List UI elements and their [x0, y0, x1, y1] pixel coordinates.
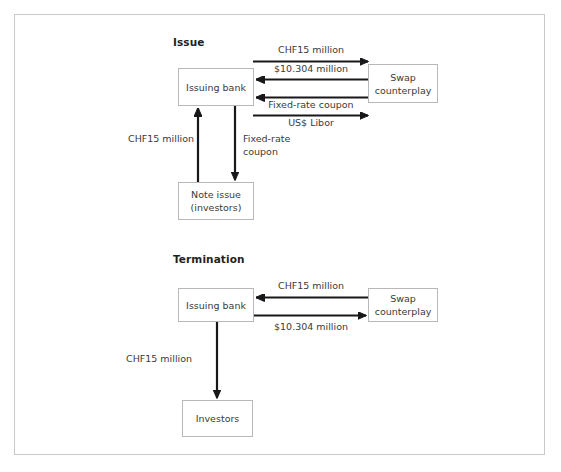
- edge-label-issue-fixed-rate-coupon-to-investors: Fixed-rate coupon: [243, 132, 290, 158]
- edge-label-issue-usd10304-to-bank: $10.304 million: [255, 62, 367, 75]
- edge-label-issue-usd-libor-to-swap: US$ Libor: [255, 116, 367, 129]
- node-termination-issuing-bank[interactable]: Issuing bank: [178, 288, 254, 322]
- node-label: Investors: [196, 412, 240, 425]
- node-issue-swap-counterplay[interactable]: Swap counterplay: [368, 64, 438, 103]
- section-heading-termination: Termination: [173, 253, 245, 265]
- edge-label-issue-fixed-rate-coupon-to-bank: Fixed-rate coupon: [253, 98, 369, 111]
- edge-label-line1: Fixed-rate: [243, 132, 290, 145]
- edge-label-termination-usd10304-to-swap: $10.304 million: [253, 320, 369, 333]
- edge-label-line2: coupon: [243, 145, 290, 158]
- edge-label-issue-chf15-from-investors: CHF15 million: [128, 132, 194, 145]
- edge-label-issue-chf15-to-swap: CHF15 million: [255, 43, 367, 56]
- node-label-line2: counterplay: [375, 305, 432, 318]
- node-label: Issuing bank: [186, 299, 246, 312]
- section-heading-issue: Issue: [173, 36, 205, 48]
- node-termination-swap-counterplay[interactable]: Swap counterplay: [368, 288, 438, 322]
- edge-label-termination-chf15-to-investors: CHF15 million: [126, 352, 192, 365]
- node-issue-issuing-bank[interactable]: Issuing bank: [178, 68, 254, 106]
- edge-label-termination-chf15-to-bank: CHF15 million: [255, 279, 367, 292]
- node-label-line2: counterplay: [375, 84, 432, 97]
- node-issue-note-issue[interactable]: Note issue (investors): [178, 182, 254, 220]
- node-label-line1: Swap: [390, 292, 416, 305]
- node-label-line1: Swap: [390, 71, 416, 84]
- figure-border: [14, 14, 545, 455]
- node-label-line1: Note issue: [191, 188, 241, 201]
- node-termination-investors[interactable]: Investors: [182, 400, 253, 437]
- diagram-canvas: Issue Issuing bank Swap counterplay Note…: [0, 0, 561, 472]
- node-label-line2: (investors): [191, 201, 242, 214]
- node-label: Issuing bank: [186, 81, 246, 94]
